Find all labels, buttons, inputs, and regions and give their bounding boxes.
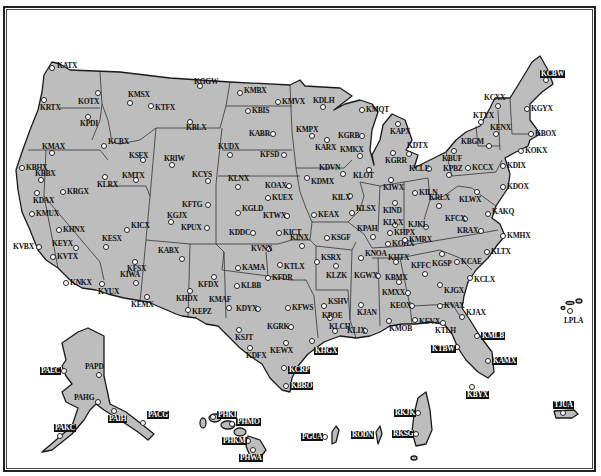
station-marker-icon[interactable] xyxy=(567,308,573,314)
station-marker-icon[interactable] xyxy=(518,148,524,154)
station-marker-icon[interactable] xyxy=(265,195,271,201)
station-marker-icon[interactable] xyxy=(358,255,364,261)
station-marker-icon[interactable] xyxy=(484,249,490,255)
station-marker-icon[interactable] xyxy=(459,314,465,320)
station-marker-icon[interactable] xyxy=(36,244,42,250)
station-marker-icon[interactable] xyxy=(359,107,365,113)
station-marker-icon[interactable] xyxy=(103,244,109,250)
station-marker-icon[interactable] xyxy=(299,243,305,249)
station-marker-icon[interactable] xyxy=(485,358,491,364)
station-marker-icon[interactable] xyxy=(467,275,473,281)
station-marker-icon[interactable] xyxy=(422,271,428,277)
station-marker-icon[interactable] xyxy=(237,90,243,96)
station-label: KDAX xyxy=(33,197,54,205)
station-marker-icon[interactable] xyxy=(324,235,330,241)
station-marker-icon[interactable] xyxy=(500,233,506,239)
station-marker-icon[interactable] xyxy=(485,211,491,217)
station-label: KDVN xyxy=(319,164,340,172)
station-marker-icon[interactable] xyxy=(124,227,130,233)
station-marker-icon[interactable] xyxy=(524,106,530,112)
station-marker-icon[interactable] xyxy=(49,65,55,71)
station-marker-icon[interactable] xyxy=(275,99,281,105)
station-marker-icon[interactable] xyxy=(265,275,271,281)
station-marker-icon[interactable] xyxy=(309,338,315,344)
station-marker-icon[interactable] xyxy=(56,227,62,233)
station-marker-icon[interactable] xyxy=(127,100,133,106)
station-marker-icon[interactable] xyxy=(406,151,412,157)
station-marker-icon[interactable] xyxy=(204,225,210,231)
station-marker-icon[interactable] xyxy=(179,256,185,262)
station-marker-icon[interactable] xyxy=(412,190,418,196)
station-marker-icon[interactable] xyxy=(437,303,443,309)
station-label: KBBX xyxy=(35,170,55,178)
station-marker-icon[interactable] xyxy=(226,305,232,311)
station-label: KATX xyxy=(57,62,77,70)
station-marker-icon[interactable] xyxy=(95,399,101,405)
station-marker-icon[interactable] xyxy=(478,228,484,234)
station-marker-icon[interactable] xyxy=(61,368,67,374)
station-marker-icon[interactable] xyxy=(19,165,25,171)
station-marker-icon[interactable] xyxy=(210,414,216,420)
station-marker-icon[interactable] xyxy=(314,259,320,265)
station-marker-icon[interactable] xyxy=(276,230,282,236)
station-marker-icon[interactable] xyxy=(281,365,287,371)
station-marker-icon[interactable] xyxy=(370,234,376,240)
station-marker-icon[interactable] xyxy=(437,282,443,288)
station-marker-icon[interactable] xyxy=(387,230,393,236)
station-marker-icon[interactable] xyxy=(486,143,492,149)
station-marker-icon[interactable] xyxy=(235,210,241,216)
station-marker-icon[interactable] xyxy=(311,212,317,218)
station-marker-icon[interactable] xyxy=(500,163,506,169)
station-marker-icon[interactable] xyxy=(235,265,241,271)
station-marker-icon[interactable] xyxy=(235,184,241,190)
station-marker-icon[interactable] xyxy=(321,303,327,309)
station-marker-icon[interactable] xyxy=(304,175,310,181)
station-marker-icon[interactable] xyxy=(270,131,276,137)
station-marker-icon[interactable] xyxy=(29,211,35,217)
station-marker-icon[interactable] xyxy=(250,230,256,236)
station-label: KGRK xyxy=(267,323,289,331)
station-marker-icon[interactable] xyxy=(495,103,501,109)
station-marker-icon[interactable] xyxy=(185,307,191,313)
station-marker-icon[interactable] xyxy=(528,131,534,137)
station-marker-icon[interactable] xyxy=(227,152,233,158)
station-marker-icon[interactable] xyxy=(436,203,442,209)
station-marker-icon[interactable] xyxy=(101,143,107,149)
station-marker-icon[interactable] xyxy=(234,283,240,289)
station-marker-icon[interactable] xyxy=(57,433,63,439)
station-marker-icon[interactable] xyxy=(454,259,460,265)
station-marker-icon[interactable] xyxy=(340,171,346,177)
station-marker-icon[interactable] xyxy=(245,108,251,114)
station-marker-icon[interactable] xyxy=(148,103,154,109)
station-marker-icon[interactable] xyxy=(277,262,283,268)
station-marker-icon[interactable] xyxy=(349,210,355,216)
station-marker-icon[interactable] xyxy=(333,263,339,269)
station-marker-icon[interactable] xyxy=(205,202,211,208)
station-marker-icon[interactable] xyxy=(412,317,418,323)
station-marker-icon[interactable] xyxy=(281,152,287,158)
station-marker-icon[interactable] xyxy=(359,133,365,139)
station-marker-icon[interactable] xyxy=(50,254,56,260)
station-marker-icon[interactable] xyxy=(560,410,566,416)
station-marker-icon[interactable] xyxy=(405,290,411,296)
station-marker-icon[interactable] xyxy=(60,189,66,195)
station-marker-icon[interactable] xyxy=(402,237,408,243)
station-marker-icon[interactable] xyxy=(474,333,480,339)
station-marker-icon[interactable] xyxy=(140,420,146,426)
station-marker-icon[interactable] xyxy=(500,184,506,190)
station-label: KILX xyxy=(332,194,350,202)
station-marker-icon[interactable] xyxy=(229,421,235,427)
station-marker-icon[interactable] xyxy=(465,165,471,171)
station-marker-icon[interactable] xyxy=(283,383,289,389)
station-marker-icon[interactable] xyxy=(285,305,291,311)
station-label: KLRX xyxy=(97,181,118,189)
station-marker-icon[interactable] xyxy=(73,245,79,251)
station-marker-icon[interactable] xyxy=(385,241,391,247)
station-marker-icon[interactable] xyxy=(439,251,445,257)
station-label: KLWX xyxy=(459,196,481,204)
station-marker-icon[interactable] xyxy=(133,280,139,286)
station-marker-icon[interactable] xyxy=(63,280,69,286)
station-marker-icon[interactable] xyxy=(95,90,101,96)
station-label: PAPD xyxy=(85,363,104,371)
station-marker-icon[interactable] xyxy=(96,372,102,378)
